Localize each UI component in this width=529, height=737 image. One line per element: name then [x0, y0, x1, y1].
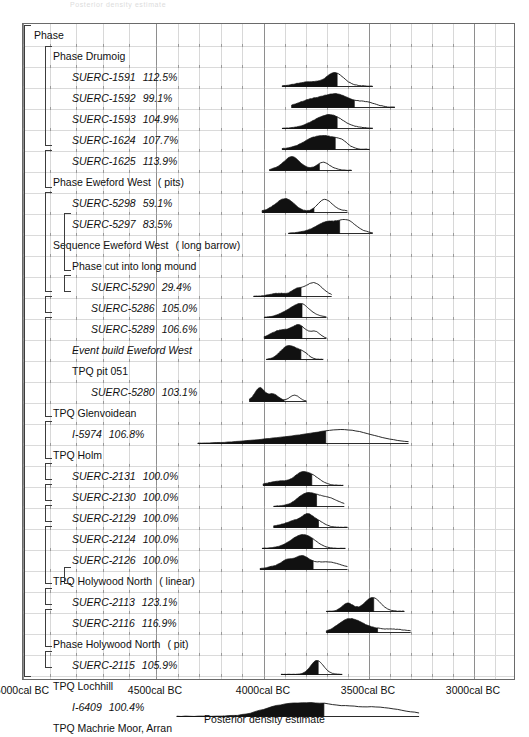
posterior-outline	[337, 117, 373, 128]
posterior-filled-area	[281, 661, 318, 675]
row-qualifier: ( pits)	[158, 176, 184, 188]
posterior-outline	[319, 162, 351, 170]
posterior-filled-area	[282, 136, 335, 150]
bracket-lochhill	[45, 484, 46, 501]
axis-tick-label: 5000cal BC	[0, 684, 49, 696]
posterior-outline	[301, 350, 323, 360]
agreement-index: 29.4%	[162, 281, 192, 293]
row-name: Event build Eweford West	[72, 344, 192, 356]
oxcal-posterior-density-chart: Posterior density estimate PhasePhase Dr…	[0, 0, 529, 737]
sample-label: SUERC-2129100.0%	[72, 511, 178, 525]
posterior-filled-area	[274, 514, 319, 528]
posterior-filled-area	[326, 619, 377, 633]
sample-label: Event build Eweford West	[72, 343, 192, 357]
group-label: Phase cut into long mound	[72, 259, 196, 273]
row-name: SUERC-2129	[72, 512, 136, 524]
posterior-filled-area	[292, 94, 355, 108]
bracket-holywood-north-pit	[45, 463, 46, 480]
axis-tick-label: 4500cal BC	[128, 684, 182, 696]
row-qualifier: ( linear)	[159, 575, 195, 587]
row-name: I-5974	[72, 428, 102, 440]
bracket-machrie-moor	[45, 505, 46, 522]
row-name: Phase Eweford West	[53, 176, 151, 188]
posterior-outline	[374, 598, 405, 612]
row-name: SUERC-5280	[91, 386, 155, 398]
agreement-index: 107.7%	[143, 134, 179, 146]
posterior-filled-area	[254, 287, 301, 296]
posterior-filled-area	[263, 472, 312, 486]
sample-label: SUERC-5280103.1%	[91, 385, 197, 399]
posterior-filled-area	[274, 493, 317, 507]
agreement-index: 100.0%	[143, 491, 179, 503]
group-label: TPQ Holm	[53, 448, 102, 462]
posterior-outline	[314, 199, 348, 211]
bracket-holywood-north-linear	[45, 421, 46, 459]
sample-label: SUERC-2113123.1%	[72, 595, 177, 609]
sample-label: SUERC-1591112.5%	[72, 70, 177, 84]
posterior-filled-area	[262, 535, 313, 549]
group-label: Phase Eweford West( pits)	[53, 175, 184, 189]
row-qualifier: ( long barrow)	[175, 239, 240, 251]
sample-label: SUERC-2124100.0%	[72, 532, 178, 546]
posterior-outline	[326, 430, 409, 442]
row-name: SUERC-2115	[72, 659, 135, 671]
agreement-index: 105.0%	[162, 302, 198, 314]
row-name: SUERC-1593	[72, 113, 136, 125]
row-name: SUERC-2116	[72, 617, 135, 629]
sample-label: SUERC-2115105.9%	[72, 658, 177, 672]
sample-label: SUERC-5289106.6%	[91, 322, 197, 336]
bracket-newbridge	[45, 609, 46, 647]
sample-label: SUERC-2116116.9%	[72, 616, 177, 630]
row-name: SUERC-5290	[91, 281, 155, 293]
x-axis: 5000cal BC4500cal BC4000cal BC3500cal BC…	[0, 684, 529, 704]
row-qualifier: ( pit)	[167, 638, 188, 650]
posterior-filled-area	[270, 157, 320, 171]
posterior-outline	[337, 73, 373, 86]
posterior-outline	[335, 137, 369, 149]
posterior-outline	[313, 538, 346, 548]
agreement-index: 100.0%	[143, 533, 179, 545]
group-label: TPQ Holywood North( linear)	[53, 574, 195, 588]
bracket-eweford-west-pits	[45, 150, 46, 188]
agreement-index: 99.1%	[143, 92, 173, 104]
row-name: Phase	[34, 29, 64, 41]
row-name: SUERC-5289	[91, 323, 155, 335]
bracket-glenvoidean	[45, 296, 46, 313]
bracket-monamore	[45, 588, 46, 605]
row-name: SUERC-5298	[72, 197, 136, 209]
agreement-index: 112.5%	[143, 71, 178, 83]
row-name: SUERC-2126	[72, 554, 136, 566]
bracket-newton	[45, 651, 46, 668]
posterior-filled-area	[249, 388, 284, 402]
sample-label: SUERC-1593104.9%	[72, 112, 178, 126]
row-name: SUERC-5286	[91, 302, 155, 314]
axis-tick-label: 3500cal BC	[341, 684, 395, 696]
posterior-outline	[318, 661, 342, 675]
posterior-filled-area	[262, 199, 314, 213]
agreement-index: 106.8%	[109, 428, 145, 440]
posterior-filled-area	[326, 598, 373, 612]
row-name: TPQ Holywood North	[53, 575, 152, 587]
posterior-outline	[340, 220, 373, 233]
group-label: Phase Drumoig	[53, 49, 125, 63]
ghost-bleed-text: Posterior density estimate	[70, 1, 500, 10]
posterior-filled-area	[266, 346, 301, 360]
posterior-outline	[378, 628, 411, 631]
agreement-index: 116.9%	[142, 617, 177, 629]
bracket-drumoig	[45, 46, 46, 146]
row-name: Phase Holywood North	[53, 638, 160, 650]
row-name: SUERC-2113	[72, 596, 135, 608]
sample-label: SUERC-2130100.0%	[72, 490, 178, 504]
group-label: Phase	[34, 28, 64, 42]
sample-label: SUERC-2126100.0%	[72, 553, 178, 567]
bracket-holm	[45, 317, 46, 417]
agreement-index: 105.9%	[142, 659, 178, 671]
row-name: SUERC-2124	[72, 533, 136, 545]
row-name: Phase cut into long mound	[72, 260, 196, 272]
group-label: Sequence Eweford West( long barrow)	[53, 238, 240, 252]
posterior-filled-area	[282, 73, 337, 87]
sample-label: SUERC-5286105.0%	[91, 301, 197, 315]
agreement-index: 100.0%	[143, 470, 179, 482]
posterior-outline	[318, 520, 347, 527]
agreement-index: 104.9%	[143, 113, 179, 125]
